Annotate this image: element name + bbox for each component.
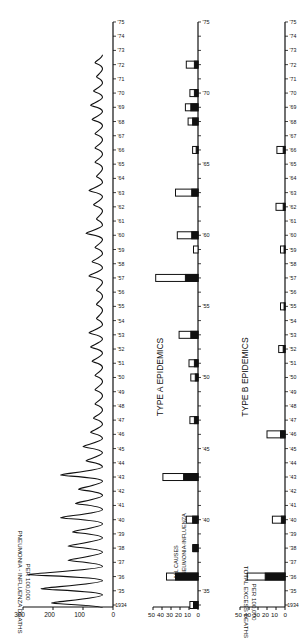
bar-pneumonia-influenza [192, 189, 198, 196]
type-a-xtick-label: '70 [202, 90, 209, 96]
top-xtick-label: '68 [118, 119, 125, 125]
type-b-xtick-label: '66 [290, 147, 297, 153]
type-b-xtick-label: '63 [290, 190, 297, 196]
type-b-xtick-label: '46 [290, 431, 297, 437]
type-b-xtick-label: '41 [290, 502, 297, 508]
top-xtick-label: '73 [118, 47, 125, 53]
type-b-xtick-label: '58 [290, 261, 297, 267]
type-a-ytick-label: 20 [175, 611, 182, 618]
type-b-xtick-label: '47 [290, 417, 297, 423]
type-b-xtick-label: '55 [290, 303, 297, 309]
type-a-xtick-label: '60 [202, 232, 209, 238]
bar-pneumonia-influenza [184, 474, 198, 481]
type-a-title: TYPE A EPIDEMICS [155, 337, 165, 416]
bar-pneumonia-influenza [281, 431, 286, 438]
axis-labels: PNEUMONIA - INFLUENZA DEATHS PER 100,000… [17, 337, 258, 638]
top-xtick-label: '52 [118, 346, 125, 352]
type-b-xtick-label: '72 [290, 62, 297, 68]
top-xtick-label: '37 [118, 559, 125, 565]
bar-pneumonia-influenza [283, 346, 285, 353]
bar-pneumonia-influenza [196, 146, 198, 153]
top-xtick-label: '64 [118, 175, 125, 181]
top-xtick-label: '59 [118, 247, 125, 253]
type-a-xtick-label: '65 [202, 161, 209, 167]
bar-pneumonia-influenza [283, 146, 285, 153]
type-b-xtick-label: '61 [290, 218, 297, 224]
top-ylabel: PNEUMONIA - INFLUENZA DEATHS [17, 530, 24, 633]
rotated-content: 01002003001934'35'36'37'38'39'40'41'42'4… [14, 19, 299, 638]
bar-pneumonia-influenza [193, 118, 198, 125]
type-b-xtick-label: '37 [290, 559, 297, 565]
top-xtick-label: '43 [118, 474, 125, 480]
type-b-xtick-label: '60 [290, 232, 297, 238]
type-b-xtick-label: '36 [290, 574, 297, 580]
top-xtick-label: '46 [118, 431, 125, 437]
top-xtick-label: '56 [118, 289, 125, 295]
type-a-xtick-label: '45 [202, 446, 209, 452]
type-b-xtick-label: '68 [290, 119, 297, 125]
type-b-xtick-label: '70 [290, 90, 297, 96]
type-b-xtick-label: '49 [290, 389, 297, 395]
type-a-ytick-label: 30 [166, 611, 173, 618]
type-a-ytick-label: 40 [157, 611, 164, 618]
type-b-ytick-label: 10 [271, 611, 278, 618]
type-a-xtick-label: '35 [202, 588, 209, 594]
top-xtick-label: '47 [118, 417, 125, 423]
top-xtick-label: '65 [118, 161, 125, 167]
type-b-ytick-label: 0 [284, 611, 288, 618]
top-xtick-label: '39 [118, 531, 125, 537]
type-a-xtick-label: '50 [202, 374, 209, 380]
bar-pneumonia-influenza [191, 104, 198, 111]
type-b-xtick-label: '56 [290, 289, 297, 295]
top-xtick-label: '45 [118, 446, 125, 452]
bar-pneumonia-influenza [284, 303, 285, 310]
bar-pneumonia-influenza [194, 61, 198, 68]
top-xtick-label: '42 [118, 488, 125, 494]
bar-pneumonia-influenza [194, 602, 199, 609]
type-a-xtick-label: '75 [202, 19, 209, 25]
type-a-ytick-label: 50 [148, 611, 155, 618]
type-b-ytick-label: 20 [262, 611, 269, 618]
bottom-ylabel: TOTAL EXCESS DEATHS [243, 566, 250, 638]
panel-type-b-epidemics: 010203040501934'35'36'37'38'39'40'41'42'… [235, 19, 299, 618]
bar-pneumonia-influenza [185, 274, 198, 281]
type-b-ytick-label: 50 [235, 611, 242, 618]
rotated-epidemic-chart: 01002003001934'35'36'37'38'39'40'41'42'4… [0, 0, 299, 642]
bar-pneumonia-influenza [193, 516, 198, 523]
type-a-xtick-label: '55 [202, 303, 209, 309]
bottom-ylabel-unit: PER 100,000 [251, 584, 258, 621]
type-b-xtick-label: '59 [290, 247, 297, 253]
type-a-ytick-label: 10 [184, 611, 191, 618]
type-b-xtick-label: 1934 [287, 602, 299, 608]
top-xtick-label: '60 [118, 232, 125, 238]
bar-pneumonia-influenza [281, 516, 285, 523]
bar-pneumonia-influenza [265, 573, 285, 580]
type-b-xtick-label: '39 [290, 531, 297, 537]
top-xtick-label: 1934 [115, 602, 127, 608]
top-xtick-label: '69 [118, 104, 125, 110]
type-b-xtick-label: '71 [290, 76, 297, 82]
top-xtick-label: '71 [118, 76, 125, 82]
bar-pneumonia-influenza [195, 374, 198, 381]
top-xtick-label: '58 [118, 261, 125, 267]
bar-pneumonia-influenza [194, 545, 199, 552]
top-xtick-label: '35 [118, 588, 125, 594]
type-a-xtick-label: '40 [202, 517, 209, 523]
top-xtick-label: '75 [118, 19, 125, 25]
top-xtick-label: '40 [118, 517, 125, 523]
top-xtick-label: '36 [118, 574, 125, 580]
top-ytick-label: 200 [44, 611, 55, 618]
type-b-xtick-label: '35 [290, 588, 297, 594]
top-ytick-label: 0 [111, 611, 115, 618]
top-ylabel-unit: PER 100,000 [25, 564, 32, 601]
type-b-xtick-label: '44 [290, 460, 297, 466]
bar-pneumonia-influenza [194, 90, 198, 97]
type-b-xtick-label: '38 [290, 545, 297, 551]
top-xtick-label: '61 [118, 218, 125, 224]
bar-pneumonia-influenza [191, 331, 198, 338]
top-xtick-label: '67 [118, 133, 125, 139]
type-b-xtick-label: '51 [290, 360, 297, 366]
type-b-xtick-label: '52 [290, 346, 297, 352]
top-xtick-label: '54 [118, 318, 125, 324]
bar-pneumonia-influenza [284, 246, 285, 253]
